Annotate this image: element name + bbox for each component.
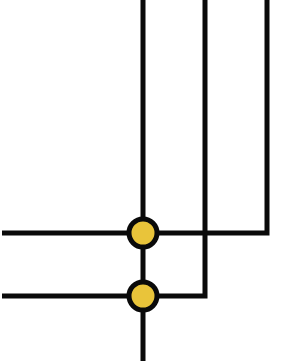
junction-lower	[129, 282, 157, 310]
wiring-diagram	[0, 0, 305, 361]
middle-wire	[2, 0, 205, 296]
right-wire	[2, 0, 267, 233]
junction-upper	[129, 219, 157, 247]
